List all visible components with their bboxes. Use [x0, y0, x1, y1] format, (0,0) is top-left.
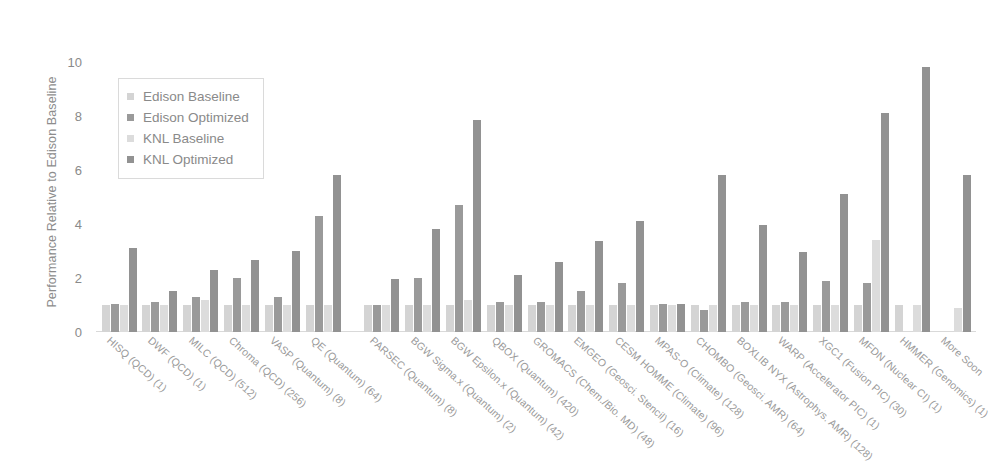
knl-optimized-bar [292, 251, 300, 332]
edison-optimized-bar [373, 305, 381, 332]
knl-optimized-bar [169, 291, 177, 332]
bar-group [567, 40, 605, 332]
knl-baseline-bar [505, 305, 513, 332]
knl-baseline-bar [242, 305, 250, 332]
knl-baseline-bar [382, 305, 390, 332]
knl-optimized-bar [881, 113, 889, 332]
edison-baseline-bar [732, 305, 740, 332]
y-tick-label: 0 [56, 325, 82, 340]
x-axis-tick-labels: HISQ (QCD) (1)DWF (QCD) (1)MILC (QCD) (5… [96, 334, 976, 470]
edison-optimized-bar [577, 291, 585, 332]
knl-optimized-bar [251, 260, 259, 332]
y-tick-label: 6 [56, 162, 82, 177]
edison-baseline-bar [446, 305, 454, 332]
knl-optimized-bar [840, 194, 848, 332]
knl-baseline-bar [546, 305, 554, 332]
edison-baseline-bar [265, 305, 273, 332]
legend-label: KNL Optimized [143, 152, 233, 167]
bar-group [893, 40, 931, 332]
legend-swatch-icon [127, 135, 134, 142]
knl-baseline-bar [201, 300, 209, 332]
bar-group [485, 40, 523, 332]
y-axis-tick-labels: 0246810 [48, 0, 82, 470]
knl-baseline-bar [120, 305, 128, 332]
knl-baseline-bar [831, 305, 839, 332]
edison-baseline-bar [183, 305, 191, 332]
edison-optimized-bar [496, 302, 504, 332]
knl-baseline-bar [160, 305, 168, 332]
knl-optimized-bar [963, 175, 971, 332]
bar-group [444, 40, 482, 332]
y-tick-label: 2 [56, 270, 82, 285]
bar-group [263, 40, 301, 332]
bar-group [526, 40, 564, 332]
y-tick-label: 8 [56, 108, 82, 123]
knl-baseline-bar [586, 305, 594, 332]
legend-item[interactable]: Edison Optimized [127, 107, 249, 128]
edison-baseline-bar [568, 305, 576, 332]
bar-group [771, 40, 809, 332]
x-tick-label: VASP (Quantum) (8) [268, 334, 349, 408]
knl-baseline-bar [627, 305, 635, 332]
knl-optimized-bar [210, 270, 218, 332]
bar-group [608, 40, 646, 332]
knl-optimized-bar [555, 262, 563, 332]
legend-item[interactable]: KNL Baseline [127, 128, 249, 149]
edison-optimized-bar [414, 278, 422, 332]
edison-optimized-bar [741, 302, 749, 332]
knl-optimized-bar [595, 241, 603, 332]
edison-baseline-bar [813, 305, 821, 332]
knl-optimized-bar [759, 225, 767, 332]
knl-baseline-bar [750, 305, 758, 332]
legend-label: KNL Baseline [143, 131, 224, 146]
x-tick-label: Chroma (QCD) (256) [227, 334, 309, 410]
edison-optimized-bar [192, 297, 200, 332]
edison-optimized-bar [537, 302, 545, 332]
knl-baseline-bar [668, 305, 676, 332]
edison-baseline-bar [306, 305, 314, 332]
edison-baseline-bar [650, 305, 658, 332]
edison-baseline-bar [528, 305, 536, 332]
legend-label: Edison Optimized [143, 110, 249, 125]
edison-baseline-bar [102, 305, 110, 332]
knl-optimized-bar [636, 221, 644, 332]
edison-optimized-bar [700, 310, 708, 332]
edison-optimized-bar [822, 281, 830, 332]
edison-baseline-bar [609, 305, 617, 332]
x-tick-label: MILC (QCD) (512) [187, 334, 260, 401]
edison-optimized-bar [151, 302, 159, 332]
legend-swatch-icon [127, 93, 134, 100]
legend-item[interactable]: Edison Baseline [127, 86, 249, 107]
knl-optimized-bar [333, 175, 341, 332]
knl-baseline-bar [423, 305, 431, 332]
bar-group [812, 40, 850, 332]
bar-group [852, 40, 890, 332]
knl-baseline-bar [464, 300, 472, 332]
edison-optimized-bar [455, 205, 463, 332]
bar-group [648, 40, 686, 332]
knl-baseline-bar [913, 305, 921, 332]
bar-group [730, 40, 768, 332]
edison-baseline-bar [691, 305, 699, 332]
knl-optimized-bar [799, 252, 807, 332]
edison-baseline-bar [895, 305, 903, 332]
knl-optimized-bar [473, 120, 481, 332]
bar-chart: Performance Relative to Edison Baseline … [0, 0, 994, 470]
knl-baseline-bar [709, 305, 717, 332]
legend-swatch-icon [127, 156, 134, 163]
knl-optimized-bar [391, 279, 399, 332]
knl-optimized-bar [514, 275, 522, 332]
edison-baseline-bar [772, 305, 780, 332]
knl-optimized-bar [718, 175, 726, 332]
edison-optimized-bar [863, 283, 871, 332]
legend-swatch-icon [127, 114, 134, 121]
legend-item[interactable]: KNL Optimized [127, 149, 249, 170]
edison-baseline-bar [405, 305, 413, 332]
bar-group [363, 40, 401, 332]
legend-label: Edison Baseline [143, 89, 240, 104]
edison-optimized-bar [659, 304, 667, 332]
edison-baseline-bar [854, 305, 862, 332]
edison-baseline-bar [364, 305, 372, 332]
y-tick-label: 10 [56, 54, 82, 69]
knl-baseline-bar [324, 305, 332, 332]
